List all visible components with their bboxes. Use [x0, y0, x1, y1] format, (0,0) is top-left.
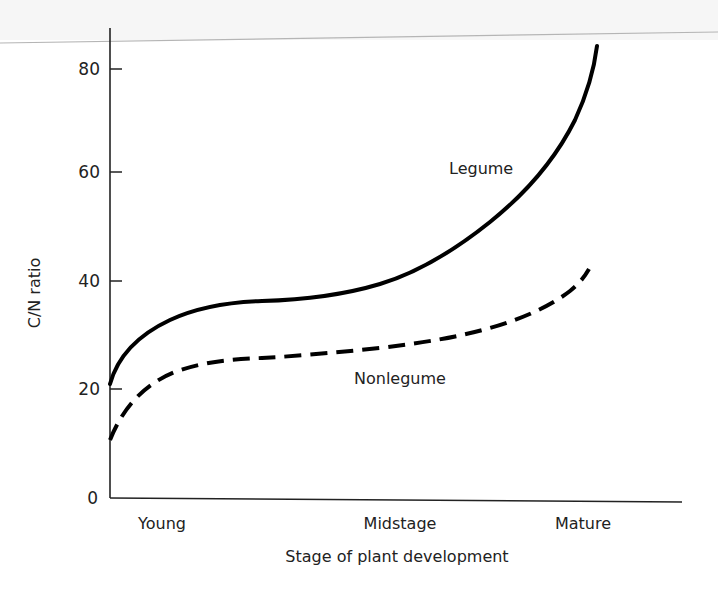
x-category-young: Young	[137, 514, 186, 533]
legume-label: Legume	[449, 159, 513, 178]
y-ticks	[110, 69, 122, 389]
cn-ratio-chart: 80 60 40 20 0 C/N ratio Young Midstage M…	[0, 0, 718, 596]
y-tick-labels: 80 60 40 20 0	[78, 59, 100, 508]
nonlegume-label: Nonlegume	[354, 369, 446, 388]
y-tick-label-80: 80	[78, 59, 100, 79]
x-category-mature: Mature	[555, 514, 611, 533]
y-tick-label-40: 40	[78, 271, 100, 291]
x-category-labels: Young Midstage Mature	[137, 514, 611, 533]
y-tick-label-0: 0	[87, 488, 98, 508]
x-category-midstage: Midstage	[364, 514, 437, 533]
legume-line	[110, 46, 597, 384]
y-axis-title: C/N ratio	[25, 258, 44, 329]
scan-line	[0, 32, 718, 43]
y-tick-label-60: 60	[78, 162, 100, 182]
y-tick-label-20: 20	[78, 379, 100, 399]
nonlegume-line	[110, 269, 589, 440]
x-axis	[110, 498, 682, 502]
x-axis-title: Stage of plant development	[285, 547, 508, 566]
